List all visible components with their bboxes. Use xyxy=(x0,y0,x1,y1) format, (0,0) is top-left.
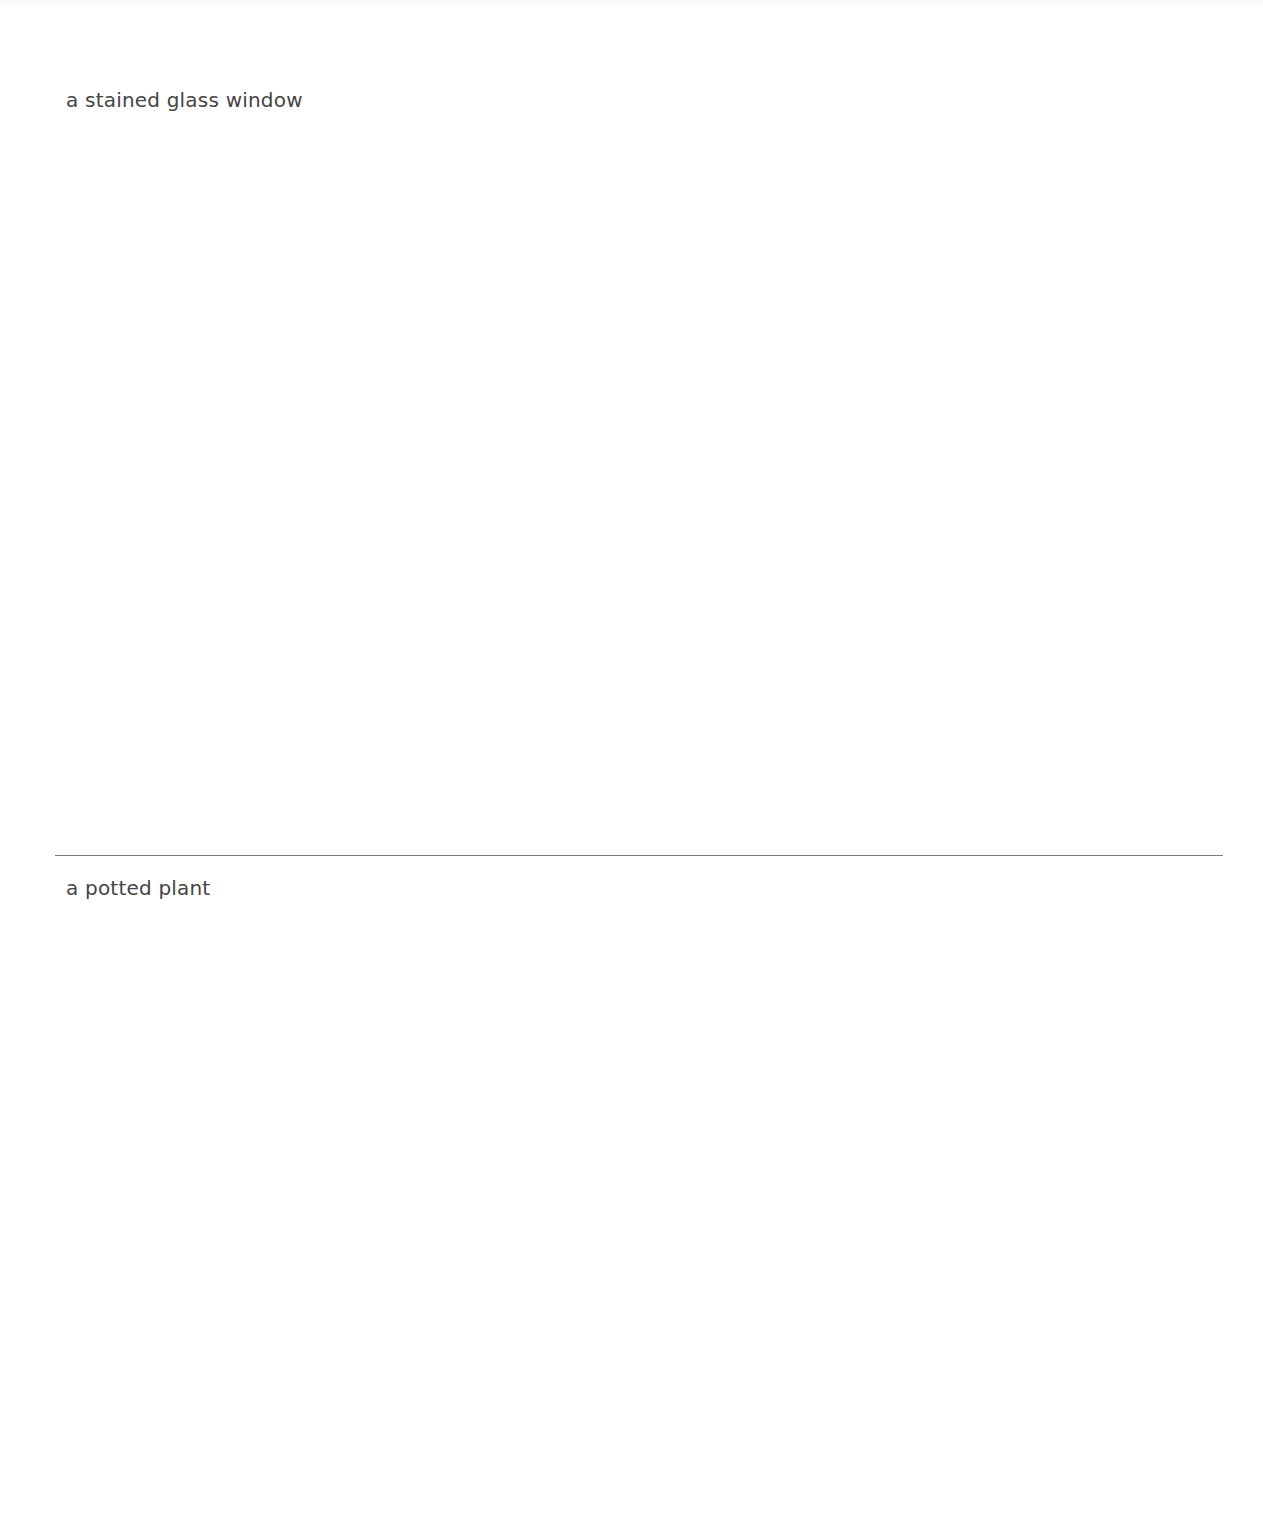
entry-potted-plant: a potted plant xyxy=(0,858,1263,1526)
entry-image-placeholder xyxy=(55,913,1223,1526)
entry-caption: a potted plant xyxy=(66,876,210,900)
entry-stained-glass-window: a stained glass window xyxy=(0,0,1263,845)
entry-caption: a stained glass window xyxy=(66,88,303,112)
section-divider xyxy=(55,855,1223,856)
entry-image-placeholder xyxy=(55,125,1223,845)
